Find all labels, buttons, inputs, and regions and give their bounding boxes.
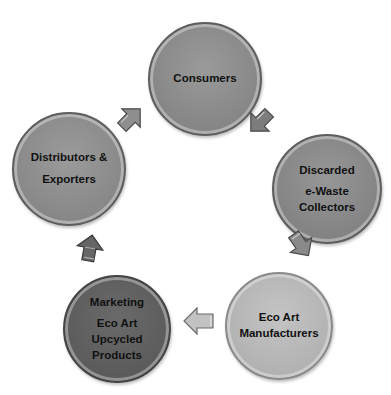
- node-manufacturers: Eco Art Manufacturers: [225, 272, 333, 380]
- arrow-up-right-icon: [116, 103, 146, 133]
- node-label: Eco Art: [97, 316, 137, 332]
- arrow-down-left-icon: [286, 230, 316, 260]
- node-label: Manufacturers: [239, 326, 318, 342]
- arrow-up-icon: [75, 233, 105, 263]
- node-marketing: Marketing Eco Art Upcycled Products: [63, 275, 171, 383]
- node-label: Consumers: [173, 71, 236, 87]
- node-label: e-Waste: [305, 184, 349, 200]
- node-label: Upcycled: [91, 332, 142, 348]
- node-label: Distributors &: [31, 150, 108, 166]
- node-label: Discarded: [299, 163, 355, 179]
- node-collectors: Discarded e-Waste Collectors: [272, 134, 382, 244]
- arrow-left-icon: [182, 307, 214, 335]
- node-label: Collectors: [299, 200, 355, 216]
- node-distributors: Distributors & Exporters: [12, 112, 126, 226]
- node-label: Marketing: [90, 295, 144, 311]
- node-label: Products: [92, 348, 142, 364]
- node-label: Exporters: [42, 172, 96, 188]
- arrow-down-right-icon: [245, 107, 275, 137]
- node-label: Eco Art: [259, 310, 299, 326]
